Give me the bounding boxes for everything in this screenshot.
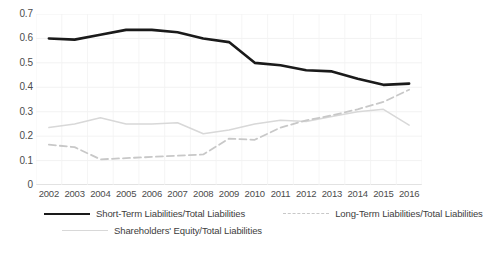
y-axis: 00.10.20.30.40.50.60.7 [0, 0, 33, 200]
y-axis-tick-label: 0.2 [3, 131, 33, 141]
y-axis-tick-label: 0.3 [3, 107, 33, 117]
x-axis-tick-label: 2014 [345, 188, 371, 202]
legend-label-shareholders-equity: Shareholders' Equity/Total Liabilities [114, 225, 262, 236]
x-axis-tick-label: 2006 [139, 188, 165, 202]
legend-label-long-term: Long-Term Liabilities/Total Liabilities [335, 208, 483, 219]
x-axis-tick-label: 2012 [293, 188, 319, 202]
legend-label-short-term: Short-Term Liabilities/Total Liabilities [96, 208, 245, 219]
x-axis-tick-label: 2011 [268, 188, 294, 202]
plot-svg [36, 14, 422, 185]
x-axis-tick-label: 2003 [62, 188, 88, 202]
legend-item-short-term[interactable]: Short-Term Liabilities/Total Liabilities [44, 208, 245, 219]
line-light-swatch [62, 230, 108, 231]
y-axis-tick-label: 0.6 [3, 33, 33, 43]
x-axis-tick-label: 2004 [87, 188, 113, 202]
plot-area [36, 14, 422, 185]
y-axis-tick-label: 0.4 [3, 82, 33, 92]
y-axis-tick-label: 0.1 [3, 156, 33, 166]
series-line [49, 109, 409, 133]
x-axis-tick-label: 2015 [371, 188, 397, 202]
y-axis-tick-label: 0.5 [3, 58, 33, 68]
legend-item-long-term[interactable]: Long-Term Liabilities/Total Liabilities [283, 208, 483, 219]
x-axis-tick-label: 2005 [113, 188, 139, 202]
x-axis-tick-label: 2007 [165, 188, 191, 202]
x-axis-tick-label: 2009 [216, 188, 242, 202]
x-axis-tick-label: 2002 [36, 188, 62, 202]
x-axis-tick-label: 2016 [396, 188, 422, 202]
y-axis-tick-label: 0.7 [3, 9, 33, 19]
series-line [49, 90, 409, 160]
x-axis: 2002200320042005200620072008200920102011… [36, 188, 422, 202]
legend-row-2: Shareholders' Equity/Total Liabilities [36, 225, 426, 236]
x-axis-tick-label: 2008 [190, 188, 216, 202]
legend-item-shareholders-equity[interactable]: Shareholders' Equity/Total Liabilities [62, 225, 262, 236]
x-axis-tick-label: 2013 [319, 188, 345, 202]
chart-legend: Short-Term Liabilities/Total Liabilities… [36, 208, 426, 252]
y-axis-tick-label: 0 [3, 180, 33, 190]
line-solid-swatch [44, 213, 90, 215]
x-axis-tick-label: 2010 [242, 188, 268, 202]
legend-row-1: Short-Term Liabilities/Total Liabilities… [36, 208, 426, 219]
line-dashed-swatch [283, 213, 329, 214]
